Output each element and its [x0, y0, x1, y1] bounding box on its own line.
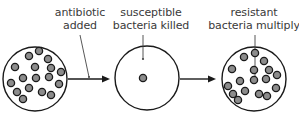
label-resistant-line1: resistant — [204, 6, 299, 19]
bacterium — [251, 49, 258, 56]
bacterium — [260, 57, 267, 64]
bacterium — [272, 84, 279, 91]
label-susceptible-line2: bacteria killed — [106, 19, 196, 32]
bacterium — [236, 77, 243, 84]
bacterium — [44, 55, 51, 62]
bacterium — [47, 91, 54, 98]
bacterium — [263, 92, 270, 99]
bacterium — [228, 65, 235, 72]
bacterium — [57, 68, 64, 75]
bacterium — [13, 88, 20, 95]
bacterium — [55, 80, 62, 87]
bacterium — [19, 74, 26, 81]
bacterium — [47, 64, 54, 71]
bacterium — [240, 53, 247, 60]
bacterium — [241, 87, 248, 94]
bacterium — [25, 52, 32, 59]
label-susceptible-line1: susceptible — [106, 6, 196, 19]
bacterium — [262, 75, 269, 82]
bacterium-survivor — [139, 74, 146, 81]
label-resistant-bacteria-multiply: resistant bacteria multiply — [204, 6, 299, 32]
bacterium — [273, 71, 280, 78]
arrow-1-head — [102, 76, 110, 83]
susceptible-pointer-dot — [142, 58, 144, 60]
stage-initial-population — [3, 47, 67, 111]
arrow-2-head — [208, 76, 216, 83]
bacterium — [38, 88, 45, 95]
stage-resistant-population — [222, 35, 286, 111]
bacterium — [224, 82, 231, 89]
bacterium — [250, 76, 257, 83]
bacterium — [250, 66, 257, 73]
arrow-2 — [180, 76, 216, 83]
label-resistant-line2: bacteria multiply — [204, 19, 299, 32]
bacterium — [265, 66, 272, 73]
bacterium — [11, 63, 18, 70]
bacterium — [45, 73, 52, 80]
bacterium — [255, 90, 262, 97]
bacterium — [25, 84, 32, 91]
bacterium — [31, 63, 38, 70]
antibiotic-pointer-dot — [88, 76, 90, 78]
bacterium — [234, 96, 241, 103]
label-susceptible-bacteria-killed: susceptible bacteria killed — [106, 6, 196, 32]
bacterium — [32, 74, 39, 81]
bacterium — [7, 79, 14, 86]
bacterium — [229, 90, 236, 97]
antibiotic-pointer-line — [80, 35, 89, 77]
bacterium — [35, 47, 42, 54]
stage-after-antibiotic — [115, 35, 179, 110]
